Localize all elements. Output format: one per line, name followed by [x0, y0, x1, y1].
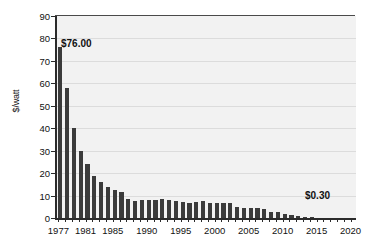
y-tick-label: 70: [22, 56, 50, 65]
y-tick-label: 10: [22, 191, 50, 200]
x-axis-tick-labels: 1977198119851990199520002005201020152020: [0, 225, 377, 243]
x-tick-mark: [72, 218, 73, 222]
x-tick-mark: [79, 218, 80, 222]
y-tick-label: 20: [22, 169, 50, 178]
y-tick-label: 40: [22, 124, 50, 133]
bar: [167, 200, 171, 218]
y-tick-mark: [51, 38, 55, 39]
bar: [201, 201, 205, 218]
bar: [147, 200, 151, 218]
x-tick-mark: [99, 218, 100, 222]
bar: [249, 208, 253, 218]
annotation-end-value: $0.30: [305, 190, 330, 201]
x-tick-mark: [215, 218, 216, 222]
bar: [215, 203, 219, 218]
bar: [79, 151, 83, 218]
x-tick-mark: [289, 218, 290, 222]
x-tick-mark: [296, 218, 297, 222]
bar: [85, 164, 89, 218]
y-tick-mark: [51, 173, 55, 174]
y-tick-label: 30: [22, 146, 50, 155]
x-axis-tick-marks: [55, 218, 355, 224]
bar: [221, 203, 225, 218]
x-tick-mark: [86, 218, 87, 222]
x-tick-mark: [181, 218, 182, 222]
y-tick-mark: [51, 128, 55, 129]
x-tick-mark: [249, 218, 250, 222]
bar: [194, 202, 198, 218]
x-tick-mark: [351, 218, 352, 222]
bar: [255, 208, 259, 218]
x-tick-mark: [194, 218, 195, 222]
bar: [174, 201, 178, 218]
x-tick-mark: [113, 218, 114, 222]
x-tick-mark: [120, 218, 121, 222]
x-tick-mark: [235, 218, 236, 222]
x-tick-mark: [147, 218, 148, 222]
y-tick-label: 90: [22, 12, 50, 21]
bar: [242, 208, 246, 218]
y-axis-tick-labels: 0102030405060708090: [22, 0, 50, 249]
x-tick-mark: [323, 218, 324, 222]
y-tick-label: 0: [22, 214, 50, 223]
y-tick-label: 60: [22, 79, 50, 88]
x-tick-mark: [317, 218, 318, 222]
x-tick-mark: [269, 218, 270, 222]
x-tick-mark: [65, 218, 66, 222]
bar: [106, 187, 110, 218]
x-tick-mark: [283, 218, 284, 222]
x-tick-mark: [126, 218, 127, 222]
x-tick-mark: [208, 218, 209, 222]
y-tick-label: 50: [22, 101, 50, 110]
bar: [262, 209, 266, 218]
y-tick-mark: [51, 151, 55, 152]
bar: [92, 176, 96, 218]
x-tick-mark: [221, 218, 222, 222]
bar: [99, 182, 103, 218]
bar: [72, 128, 76, 218]
bar: [160, 199, 164, 218]
x-tick-mark: [242, 218, 243, 222]
bar: [119, 192, 123, 218]
y-tick-mark: [51, 196, 55, 197]
x-tick-label: 2020: [331, 225, 371, 236]
annotation-start-value: $76.00: [61, 38, 92, 49]
bars-series: [57, 16, 356, 218]
x-tick-mark: [276, 218, 277, 222]
bar: [228, 203, 232, 218]
x-tick-mark: [330, 218, 331, 222]
y-tick-mark: [51, 83, 55, 84]
x-tick-mark: [160, 218, 161, 222]
x-tick-mark: [310, 218, 311, 222]
x-tick-mark: [174, 218, 175, 222]
bar: [153, 200, 157, 218]
x-tick-mark: [262, 218, 263, 222]
bar: [113, 190, 117, 218]
x-tick-mark: [201, 218, 202, 222]
bar: [58, 47, 62, 218]
x-tick-mark: [303, 218, 304, 222]
y-tick-mark: [51, 16, 55, 17]
x-tick-mark: [58, 218, 59, 222]
bar: [133, 201, 137, 218]
x-tick-mark: [140, 218, 141, 222]
x-tick-mark: [337, 218, 338, 222]
y-tick-label: 80: [22, 34, 50, 43]
bar: [126, 199, 130, 218]
x-tick-mark: [92, 218, 93, 222]
y-tick-mark: [51, 61, 55, 62]
bar: [208, 203, 212, 218]
x-tick-mark: [133, 218, 134, 222]
y-tick-mark: [51, 218, 55, 219]
x-tick-mark: [188, 218, 189, 222]
bar-chart: $/watt 0102030405060708090 1977198119851…: [0, 0, 377, 249]
bar: [65, 88, 69, 218]
y-axis-title: $/watt: [11, 71, 21, 131]
bar: [181, 202, 185, 218]
x-tick-mark: [167, 218, 168, 222]
x-tick-mark: [106, 218, 107, 222]
x-tick-mark: [154, 218, 155, 222]
x-tick-mark: [255, 218, 256, 222]
x-tick-mark: [344, 218, 345, 222]
y-tick-mark: [51, 106, 55, 107]
